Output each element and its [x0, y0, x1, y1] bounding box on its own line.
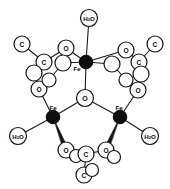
atom-circle-ow [81, 10, 98, 27]
atom-circle-o [119, 73, 133, 87]
atom-H2O-top: H2O [81, 10, 98, 27]
atom-O-tr-inner [104, 56, 120, 72]
atom-circle-o [26, 65, 42, 81]
atom-C-b-methyl2 [86, 164, 99, 177]
molecular-structure-figure: OFeFeFeH2OH2OH2OOCCOOCCOOOCC [0, 0, 170, 189]
atom-circle-o [58, 40, 74, 56]
atom-circle-o [133, 66, 149, 82]
atom-O-tr-lower: O [130, 82, 146, 98]
atom-circle-ow [142, 128, 159, 145]
atom-circle-o [104, 56, 120, 72]
atom-O-tl-lower2 [26, 65, 42, 81]
atom-circle-o [118, 42, 134, 58]
atom-circle-c [78, 146, 94, 162]
atom-circle-o [42, 73, 56, 87]
atom-H2O-right: H2O [142, 128, 159, 145]
atom-C-tr-methyl: C [147, 36, 163, 52]
atom-O-central: O [77, 90, 94, 107]
atom-O-tl-extra [42, 73, 56, 87]
atom-circle-ow [10, 128, 27, 145]
atom-H2O-left: H2O [10, 128, 27, 145]
atom-circle-o [108, 151, 121, 164]
atom-circle-o [77, 90, 94, 107]
atom-circle-o [130, 82, 146, 98]
atom-O-tl-inner [55, 55, 71, 71]
atom-O-br2 [108, 151, 121, 164]
atom-C-tl-methyl: C [14, 36, 30, 52]
atom-circle-fe [46, 110, 60, 124]
atom-C-b-carboxy: C [78, 146, 94, 162]
atom-O-tr-extra [119, 73, 133, 87]
atom-O-tl-upper: O [58, 40, 74, 56]
atom-circle-fe [113, 110, 127, 124]
atom-circle-c [14, 36, 30, 52]
atom-O-tr-upper: O [118, 42, 134, 58]
atom-circle-fe [79, 55, 93, 69]
atom-circle-c [86, 164, 99, 177]
molecule-diagram: OFeFeFeH2OH2OH2OOCCOOCCOOOCC [0, 0, 170, 189]
atom-O-tr-lower2 [133, 66, 149, 82]
atom-circle-o [55, 55, 71, 71]
atom-circle-c [147, 36, 163, 52]
